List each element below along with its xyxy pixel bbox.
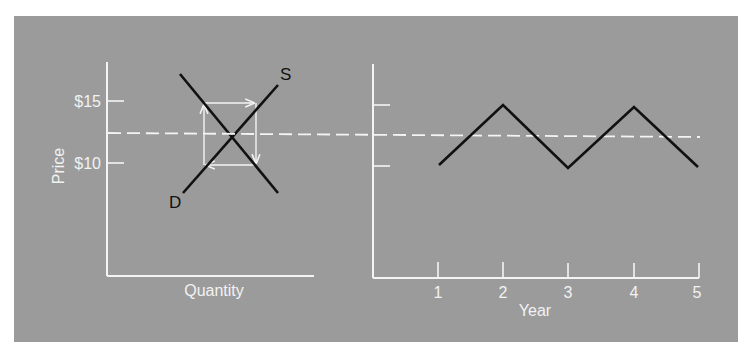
- x-ticks: [438, 262, 699, 278]
- x-axis-label: Year: [519, 302, 552, 319]
- price-over-time-chart: 1 2 3 4 5 Year: [373, 64, 702, 319]
- x-tick-label-5: 5: [693, 284, 702, 301]
- y-axis-label: Price: [50, 148, 67, 185]
- x-axis-label: Quantity: [184, 282, 244, 299]
- x-tick-label-2: 2: [499, 284, 508, 301]
- x-tick-label-1: 1: [434, 284, 443, 301]
- supply-demand-chart: $15 $10 Price Quantity S D: [50, 62, 314, 299]
- figure: $15 $10 Price Quantity S D 1 2: [0, 0, 748, 356]
- x-tick-label-4: 4: [630, 284, 639, 301]
- curve-label-s: S: [280, 65, 291, 84]
- tick-label-10: $10: [74, 155, 101, 172]
- curve-label-d: D: [169, 193, 181, 212]
- equilibrium-dashed-line: [108, 133, 700, 137]
- x-tick-label-3: 3: [564, 284, 573, 301]
- tick-label-15: $15: [74, 93, 101, 110]
